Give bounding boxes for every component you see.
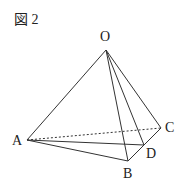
edge-AB <box>27 140 128 161</box>
vertex-label-A: A <box>12 134 22 148</box>
vertex-label-D: D <box>146 147 156 161</box>
edge-OC <box>106 50 161 128</box>
tetrahedron-diagram <box>0 0 180 192</box>
vertex-label-C: C <box>165 121 174 135</box>
edge-OA <box>27 50 106 140</box>
edge-OD <box>106 50 144 145</box>
vertex-label-O: O <box>100 30 110 44</box>
vertex-label-B: B <box>123 167 132 181</box>
edge-AD <box>27 140 144 145</box>
